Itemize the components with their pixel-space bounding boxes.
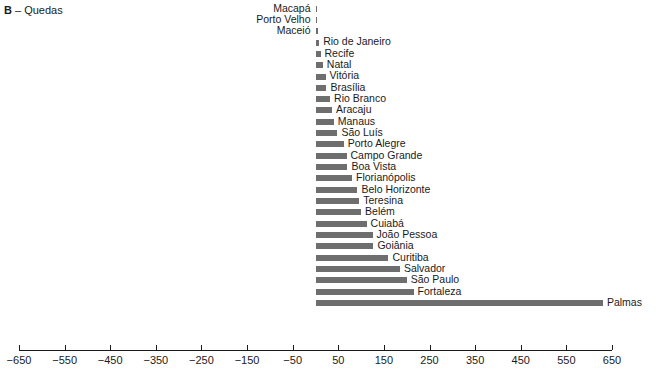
bar [316, 175, 352, 181]
bar-row: Campo Grande [0, 150, 659, 161]
bar [316, 209, 362, 215]
bar-row: Goiânia [0, 241, 659, 252]
x-axis-tick-label: 550 [557, 354, 575, 367]
bar-label: Aracaju [336, 104, 372, 115]
bar [316, 17, 318, 23]
bar [316, 255, 389, 261]
x-axis-tick [475, 345, 476, 350]
x-axis-tick [65, 345, 66, 350]
bar-label: Goiânia [377, 240, 413, 251]
bar [316, 40, 320, 46]
bar [316, 243, 374, 249]
bar [316, 289, 414, 295]
bar [316, 141, 344, 147]
bar-row: Cuiabá [0, 218, 659, 229]
x-axis-tick [612, 345, 613, 350]
x-axis-tick-label: 50 [332, 354, 344, 367]
x-axis-tick [521, 345, 522, 350]
x-axis-tick-label: −550 [52, 354, 77, 367]
x-axis-tick [430, 345, 431, 350]
bar-label: Florianópolis [356, 172, 416, 183]
bar-row: Boa Vista [0, 161, 659, 172]
x-axis-tick-label: −650 [7, 354, 32, 367]
bar-row: Rio Branco [0, 94, 659, 105]
bar-row: São Paulo [0, 275, 659, 286]
x-axis-tick [156, 345, 157, 350]
x-axis-tick-label: −150 [235, 354, 260, 367]
x-axis-tick-label: 650 [603, 354, 621, 367]
bar-row: João Pessoa [0, 229, 659, 240]
bar [316, 62, 323, 68]
bar-row: Porto Alegre [0, 139, 659, 150]
bar-row: Palmas [0, 297, 659, 308]
bar [316, 164, 348, 170]
bar-row: Belém [0, 207, 659, 218]
x-axis-tick-label: 250 [420, 354, 438, 367]
bar [316, 85, 327, 91]
bar-row: Salvador [0, 263, 659, 274]
bar [316, 153, 347, 159]
plot-area: MacapáPorto VelhoMaceióRio de JaneiroRec… [0, 0, 659, 345]
bar-row: Curitiba [0, 252, 659, 263]
x-axis-tick [247, 345, 248, 350]
x-axis-tick [110, 345, 111, 350]
bar-row: Macapá [0, 3, 659, 14]
x-axis-tick [201, 345, 202, 350]
x-axis-line [19, 350, 612, 351]
x-axis-tick [566, 345, 567, 350]
x-axis-tick-label: 450 [512, 354, 530, 367]
bar-row: Manaus [0, 116, 659, 127]
x-axis: −650−550−450−350−250−150−505015025035045… [0, 345, 659, 380]
bar-label: Porto Alegre [348, 138, 406, 149]
bar [316, 96, 331, 102]
bar [316, 221, 367, 227]
bar-label: São Paulo [411, 274, 459, 285]
x-axis-tick-label: −450 [98, 354, 123, 367]
bar [316, 300, 603, 306]
bar-label: Fortaleza [418, 286, 462, 297]
bar-label: Maceió [277, 25, 311, 36]
bar [316, 107, 332, 113]
bar [316, 74, 326, 80]
bar-row: Belo Horizonte [0, 184, 659, 195]
x-axis-tick [384, 345, 385, 350]
bar-row: Fortaleza [0, 286, 659, 297]
bar [316, 119, 334, 125]
bar [316, 187, 358, 193]
x-axis-tick [293, 345, 294, 350]
bar [316, 198, 360, 204]
x-axis-tick-label: −250 [189, 354, 214, 367]
bar-chart-panel: B – Quedas MacapáPorto VelhoMaceióRio de… [0, 0, 659, 380]
x-axis-tick-label: −50 [283, 354, 302, 367]
x-axis-tick [338, 345, 339, 350]
bar [316, 51, 321, 57]
bar-row: São Luís [0, 128, 659, 139]
bar [316, 266, 400, 272]
bar-row: Porto Velho [0, 14, 659, 25]
bar [316, 277, 407, 283]
bar-label: Belém [365, 206, 395, 217]
bar-row: Teresina [0, 195, 659, 206]
bar-row: Brasília [0, 82, 659, 93]
x-axis-tick-label: −350 [143, 354, 168, 367]
bar [316, 6, 318, 12]
x-axis-tick-label: 350 [466, 354, 484, 367]
x-axis-tick [19, 345, 20, 350]
bar [316, 232, 373, 238]
bar [316, 28, 318, 34]
x-axis-tick-label: 150 [375, 354, 393, 367]
bar [316, 130, 338, 136]
bar-row: Aracaju [0, 105, 659, 116]
bar-row: Florianópolis [0, 173, 659, 184]
bar-label: Palmas [607, 297, 642, 308]
